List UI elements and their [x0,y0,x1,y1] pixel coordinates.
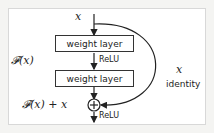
sum-label: 𝓕(x) + x [22,98,67,111]
weight-layer-1-label: weight layer [67,39,123,49]
identity-label: identity [166,79,200,89]
weight-layer-2-label: weight layer [67,74,123,84]
input-x-label: x [75,10,81,23]
relu-2-label: ReLU [99,111,119,120]
weight-layer-1: weight layer [55,35,134,52]
weight-layer-2: weight layer [55,70,134,87]
relu-1-label: ReLU [99,55,119,64]
skip-x-label: x [176,63,182,76]
function-label: 𝓕(x) [11,54,34,67]
